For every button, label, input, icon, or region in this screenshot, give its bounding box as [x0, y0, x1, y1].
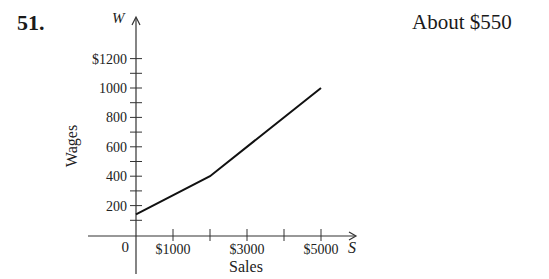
x-tick-label: $1000 — [156, 242, 191, 257]
y-tick-label: 800 — [106, 110, 127, 125]
y-tick-label: 600 — [106, 140, 127, 155]
y-tick-labels: 2004006008001000$1200 — [92, 52, 127, 214]
x-tick-label: $3000 — [230, 242, 265, 257]
axes — [88, 17, 356, 274]
y-tick-label: $1200 — [92, 52, 127, 67]
wages-vs-sales-chart: 2004006008001000$1200 $1000$3000$5000 0 … — [0, 0, 549, 279]
y-axis-variable: W — [112, 10, 126, 26]
x-ticks — [173, 229, 321, 241]
y-axis-label: Wages — [63, 125, 81, 167]
x-tick-label: $5000 — [304, 242, 339, 257]
x-axis-label: Sales — [229, 258, 263, 275]
x-tick-labels: $1000$3000$5000 — [156, 242, 339, 257]
y-tick-label: 400 — [106, 169, 127, 184]
y-tick-label: 1000 — [99, 81, 127, 96]
x-axis-variable: S — [348, 239, 356, 256]
y-tick-label: 200 — [106, 199, 127, 214]
origin-label: 0 — [122, 239, 130, 255]
wages-line — [136, 88, 321, 214]
